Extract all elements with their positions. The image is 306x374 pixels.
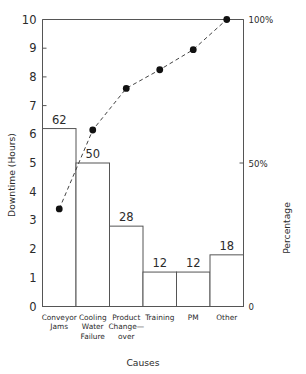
bar bbox=[177, 272, 211, 306]
y-axis-title: Downtime (Hours) bbox=[6, 133, 17, 217]
bar-value-label: 50 bbox=[85, 147, 100, 161]
cumulative-marker bbox=[190, 46, 197, 53]
y-tick-label: 7 bbox=[29, 99, 36, 113]
y-tick-label: 4 bbox=[29, 185, 36, 199]
bar bbox=[143, 272, 177, 306]
secondary-tick-label: 0 bbox=[249, 302, 254, 312]
y-tick-label: 3 bbox=[29, 213, 36, 227]
category-label-line: Product bbox=[112, 313, 140, 322]
bar bbox=[43, 129, 77, 307]
bar-value-label: 18 bbox=[219, 239, 234, 253]
category-label: CoolingWaterFailure bbox=[79, 313, 107, 341]
bar-value-label: 28 bbox=[119, 210, 134, 224]
bar bbox=[110, 226, 144, 306]
y-tick-label: 6 bbox=[29, 127, 36, 141]
y-tick-label: 1 bbox=[29, 271, 36, 285]
secondary-tick-label: 50% bbox=[249, 159, 268, 169]
category-label: Training bbox=[144, 313, 174, 322]
y-tick-label: 9 bbox=[29, 41, 36, 55]
category-label-line: Other bbox=[216, 313, 238, 322]
category-label-line: Conveyor bbox=[42, 313, 78, 322]
y-tick-label: 10 bbox=[22, 13, 37, 27]
secondary-axis-title: Percentage bbox=[281, 202, 292, 254]
cumulative-marker bbox=[89, 127, 96, 134]
category-label-line: Cooling bbox=[79, 313, 107, 322]
pareto-chart: 012345678910 625028121218 050%100% Conve… bbox=[0, 0, 306, 374]
cumulative-marker bbox=[223, 16, 230, 23]
category-label-line: Change— bbox=[108, 322, 144, 331]
category-label: Other bbox=[216, 313, 238, 322]
bar-value-label: 12 bbox=[186, 256, 201, 270]
cumulative-marker bbox=[123, 85, 130, 92]
category-label-line: Training bbox=[144, 313, 174, 322]
category-label-line: PM bbox=[188, 313, 199, 322]
category-label: PM bbox=[188, 313, 199, 322]
bar bbox=[210, 255, 244, 307]
bar bbox=[76, 163, 110, 307]
category-label-line: Failure bbox=[81, 332, 106, 341]
cumulative-marker bbox=[56, 206, 63, 213]
bar-value-label: 12 bbox=[152, 256, 167, 270]
y-tick-label: 0 bbox=[29, 300, 36, 314]
x-axis-title: Causes bbox=[126, 357, 159, 368]
category-label-line: Water bbox=[82, 322, 105, 331]
bar-value-label: 62 bbox=[52, 113, 67, 127]
chart-canvas: 012345678910 625028121218 050%100% Conve… bbox=[0, 0, 306, 374]
y-tick-label: 5 bbox=[29, 156, 36, 170]
category-label-line: Jams bbox=[49, 322, 68, 331]
category-label-line: over bbox=[118, 332, 135, 341]
y-tick-label: 2 bbox=[29, 242, 36, 256]
y-tick-label: 8 bbox=[29, 70, 36, 84]
cumulative-marker bbox=[156, 66, 163, 73]
secondary-tick-label: 100% bbox=[249, 15, 274, 25]
